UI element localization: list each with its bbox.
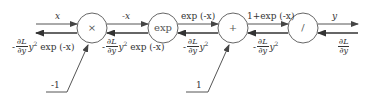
node-divide-label: / — [288, 22, 318, 34]
label-y: y — [332, 11, 337, 21]
minus-sign: - — [183, 42, 186, 52]
exponent: 2 — [205, 40, 209, 47]
fraction-dL-dy: ∂L ∂y — [16, 38, 27, 55]
grad-label-x: - ∂L ∂y y2 exp (-x) — [12, 38, 74, 55]
label-neg-x: -x — [122, 11, 130, 21]
fraction-dL-dy: ∂L ∂y — [338, 38, 349, 55]
grad-label-y: ∂L ∂y — [338, 38, 349, 55]
exponent: 2 — [124, 40, 128, 47]
fraction-denominator: ∂y — [106, 47, 117, 55]
label-one-plus-exp: 1+exp (-x) — [247, 11, 294, 21]
fraction-denominator: ∂y — [187, 47, 198, 55]
fraction-denominator: ∂y — [257, 47, 268, 55]
node-exp-label: exp — [148, 22, 178, 34]
exp-term: exp (-x) — [40, 42, 74, 52]
exponent: 2 — [275, 40, 279, 47]
grad-label-neg-x: - ∂L ∂y y2 exp (-x) — [102, 38, 164, 55]
node-multiply-label: × — [77, 22, 107, 34]
fraction-denominator: ∂y — [338, 47, 349, 55]
grad-label-sum: - ∂L ∂y y2 — [253, 38, 278, 55]
constant-one-label: 1 — [196, 80, 202, 90]
fraction-dL-dy: ∂L ∂y — [257, 38, 268, 55]
fraction-dL-dy: ∂L ∂y — [106, 38, 117, 55]
label-x: x — [55, 11, 60, 21]
minus-sign: - — [102, 42, 105, 52]
node-add-label: + — [218, 22, 248, 34]
fraction-dL-dy: ∂L ∂y — [187, 38, 198, 55]
minus-sign: - — [253, 42, 256, 52]
grad-label-exp: - ∂L ∂y y2 — [183, 38, 208, 55]
exponent: 2 — [34, 40, 38, 47]
fraction-denominator: ∂y — [16, 47, 27, 55]
minus-sign: - — [12, 42, 15, 52]
exp-term: exp (-x) — [130, 42, 164, 52]
label-exp-neg-x: exp (-x) — [181, 11, 215, 21]
constant-neg-one-label: -1 — [51, 80, 60, 90]
